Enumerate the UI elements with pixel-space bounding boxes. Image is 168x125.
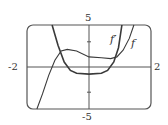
y-min-label: -5 <box>82 112 92 122</box>
y-max-label: 5 <box>85 13 91 23</box>
x-max-label: 2 <box>154 62 160 72</box>
f-prime-label: f′ <box>110 34 117 45</box>
x-min-label: -2 <box>8 62 18 72</box>
f-label: f <box>131 38 135 49</box>
chart-plot <box>0 0 168 125</box>
